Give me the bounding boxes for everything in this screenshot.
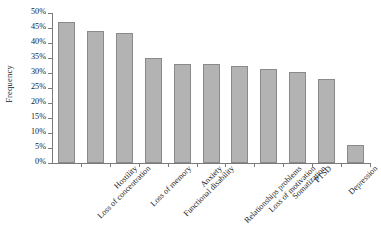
bar — [145, 58, 162, 163]
bar — [203, 64, 220, 163]
y-axis-tick-label: 0% — [35, 157, 46, 166]
bar — [116, 33, 133, 164]
x-axis-labels: Loss of concentrationHostilityLoss of me… — [52, 164, 381, 244]
y-axis-tick-label: 50% — [31, 7, 46, 16]
y-axis-tick-label: 40% — [31, 37, 46, 46]
bar — [318, 79, 335, 163]
bar — [87, 31, 104, 163]
y-axis-tick-label: 20% — [31, 97, 46, 106]
y-axis-tick-label: 15% — [31, 112, 46, 121]
bar — [174, 64, 191, 163]
y-axis-tick-label: 30% — [31, 67, 46, 76]
y-axis-tick-label: 25% — [31, 82, 46, 91]
y-axis-ticks: 50%45%40%35%30%25%20%15%10%5%0% — [0, 13, 52, 163]
bar — [347, 145, 364, 163]
bar-chart: Frequency 50%45%40%35%30%25%20%15%10%5%0… — [0, 0, 381, 244]
bar — [58, 22, 75, 163]
x-axis-tick-label: PTSD — [313, 164, 334, 185]
x-axis-tick-label: Depression — [346, 164, 378, 196]
y-axis-tick-label: 10% — [31, 127, 46, 136]
bar — [289, 72, 306, 164]
y-axis-tick-label: 35% — [31, 52, 46, 61]
y-axis-tick-label: 5% — [35, 142, 46, 151]
plot-area — [52, 13, 370, 163]
bar — [231, 66, 248, 164]
bar — [260, 69, 277, 164]
y-axis-tick-label: 45% — [31, 22, 46, 31]
x-axis-tick-label: Loss of memory — [149, 164, 193, 208]
y-axis-line — [52, 13, 53, 163]
